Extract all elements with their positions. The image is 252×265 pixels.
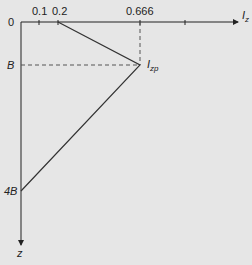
diagram-canvas: 0 0.1 0.2 0.666 Iz B 4B Izp z: [0, 0, 252, 265]
origin-label: 0: [8, 16, 14, 28]
tick-label-0-666: 0.666: [126, 5, 154, 17]
influence-curve: [21, 22, 140, 191]
tick-label-0-2: 0.2: [52, 5, 67, 17]
tick-label-4b: 4B: [4, 185, 17, 197]
peak-point-label: Izp: [147, 58, 159, 73]
horizontal-axis-label: Iz: [242, 9, 249, 24]
tick-label-0-1: 0.1: [32, 5, 47, 17]
tick-label-b: B: [7, 59, 14, 71]
vertical-axis-label: z: [16, 247, 23, 259]
